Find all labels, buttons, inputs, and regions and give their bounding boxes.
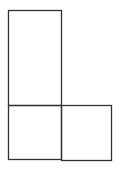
bottom-left-square: [9, 106, 62, 160]
shape-diagram: [0, 0, 120, 170]
bottom-right-square: [62, 106, 112, 161]
tall-rect: [9, 11, 62, 106]
shapes-group: [9, 11, 112, 161]
